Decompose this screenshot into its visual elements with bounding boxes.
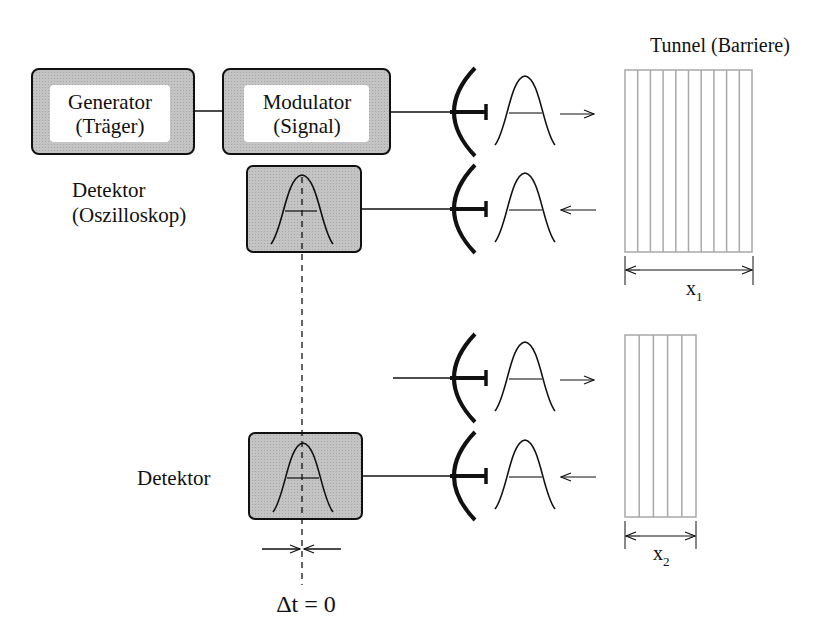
antenna-row — [393, 334, 594, 422]
modulator-sublabel: (Signal) — [273, 114, 341, 138]
detector-top-label: Detektor — [72, 178, 145, 202]
detector-bottom-box — [249, 433, 362, 519]
delta-t-label: Δt = 0 — [276, 591, 336, 617]
pulse-icon — [495, 173, 555, 242]
antenna-row — [361, 165, 596, 253]
barrier-wide — [625, 70, 752, 252]
generator-box: Generator (Träger) — [32, 69, 194, 154]
x1-label: x1 — [686, 277, 703, 304]
detector-bottom-label: Detektor — [137, 466, 210, 490]
barrier-narrow — [625, 335, 696, 517]
detector-top-box — [247, 166, 361, 252]
generator-sublabel: (Träger) — [75, 114, 144, 138]
modulator-label: Modulator — [263, 90, 352, 114]
generator-label: Generator — [68, 90, 152, 114]
title-label: Tunnel (Barriere) — [650, 34, 790, 57]
modulator-box: Modulator (Signal) — [223, 69, 390, 154]
pulse-icon — [495, 76, 555, 145]
antenna-row — [362, 432, 596, 520]
pulse-icon — [495, 342, 555, 411]
detector-top-sublabel: (Oszilloskop) — [72, 203, 186, 227]
tunnel-diagram: Tunnel (Barriere) Generator (Träger) Mod… — [0, 0, 819, 644]
antenna-row — [390, 68, 594, 156]
pulse-icon — [495, 440, 555, 509]
width-marker-x2: x2 — [625, 521, 696, 569]
x2-label: x2 — [653, 542, 670, 569]
width-marker-x1: x1 — [625, 256, 753, 304]
